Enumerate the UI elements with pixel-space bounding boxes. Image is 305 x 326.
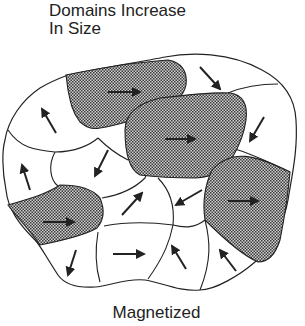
magnetic-domains-diagram <box>0 0 305 326</box>
diagram-caption: Magnetized <box>0 303 305 323</box>
